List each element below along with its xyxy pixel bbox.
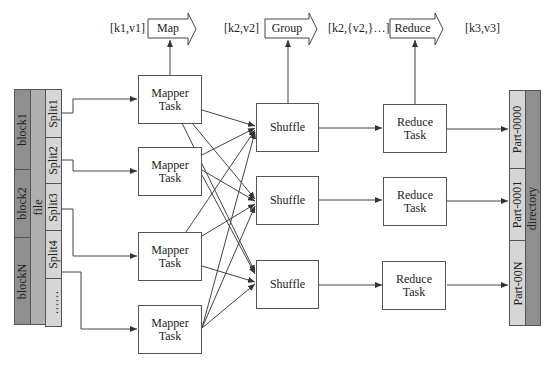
split3-label: Split3 (46, 193, 61, 222)
directory-label: directory (526, 186, 541, 229)
stage1-input-label: [k1,v1] (110, 21, 145, 36)
part-0000-label: Part-0000 (510, 106, 525, 153)
mapper-label: Task (151, 257, 188, 270)
shuffle-1: Shuffle (256, 103, 319, 152)
part-0000-cell: Part-0000 (509, 90, 526, 169)
mapper-task-4: MapperTask (138, 305, 202, 354)
mapper-task-3: MapperTask (138, 232, 202, 281)
file-label: file (31, 199, 46, 215)
shuffle-label: Shuffle (270, 121, 305, 134)
split2-label: Split2 (46, 146, 61, 175)
blockn-cell: blockN (14, 237, 31, 325)
reduce-label: Reduce (397, 189, 433, 202)
reduce-arrow: Reduce (390, 19, 435, 38)
stage3-input-label: [k2,{v2,}…] (328, 21, 390, 36)
stage2-input-label: [k2,v2] (224, 21, 259, 36)
group-arrow: Group (265, 19, 309, 38)
split-more-cell: …… (45, 278, 62, 327)
mapper-label: Mapper (151, 159, 188, 172)
split2-cell: Split2 (45, 137, 62, 184)
mapper-label: Task (151, 330, 188, 343)
stage4-output-label: [k3,v3] (465, 21, 500, 36)
map-arrow: Map (148, 19, 188, 38)
block2-cell: block2 (14, 169, 31, 238)
reduce-label: Reduce (396, 273, 432, 286)
mapper-label: Task (151, 172, 188, 185)
mapper-label: Mapper (151, 244, 188, 257)
split-more-label: …… (46, 291, 61, 315)
part-00n-cell: Part-00N (509, 240, 526, 326)
shuffle-label: Shuffle (270, 194, 305, 207)
part-0001-label: Part-0001 (510, 181, 525, 228)
group-label: Group (272, 21, 303, 36)
reduce-label: Task (397, 202, 433, 215)
reduce-task-1: ReduceTask (383, 104, 447, 153)
file-column: file (30, 89, 46, 325)
mapper-task-1: MapperTask (138, 75, 202, 124)
block1-cell: block1 (14, 89, 31, 170)
reduce-label: Reduce (397, 116, 433, 129)
shuffle-2: Shuffle (256, 176, 319, 225)
split4-label: Split4 (46, 240, 61, 269)
block2-label: block2 (15, 187, 30, 220)
split4-cell: Split4 (45, 230, 62, 279)
split1-label: Split1 (46, 99, 61, 128)
split3-cell: Split3 (45, 183, 62, 231)
shuffle-label: Shuffle (270, 278, 305, 291)
reduce-label: Task (396, 286, 432, 299)
reduce-task-3: ReduceTask (382, 261, 446, 310)
reduce-label: Reduce (395, 21, 431, 36)
reduce-task-2: ReduceTask (383, 177, 447, 226)
directory-column: directory (525, 90, 541, 326)
blockn-label: blockN (15, 263, 30, 298)
split1-cell: Split1 (45, 89, 62, 138)
reduce-label: Task (397, 129, 433, 142)
map-label: Map (157, 21, 179, 36)
part-00n-label: Part-00N (510, 261, 525, 305)
mapper-label: Task (151, 100, 188, 113)
shuffle-3: Shuffle (256, 260, 319, 309)
block1-label: block1 (15, 113, 30, 146)
mapper-task-2: MapperTask (138, 147, 202, 196)
mapper-label: Mapper (151, 317, 188, 330)
mapper-label: Mapper (151, 87, 188, 100)
part-0001-cell: Part-0001 (509, 168, 526, 241)
